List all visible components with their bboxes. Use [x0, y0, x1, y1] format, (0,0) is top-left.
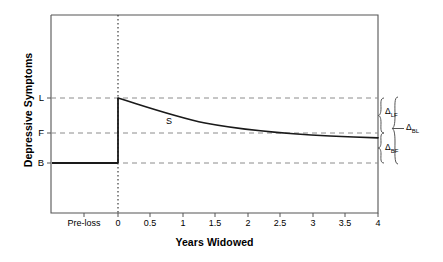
y-tick-label-B: B: [24, 158, 44, 168]
x-tick-label-3: 3: [299, 218, 327, 228]
x-tick-label-1-5: 1.5: [201, 218, 229, 228]
x-tick-label-1: 1: [169, 218, 197, 228]
x-tick-marks: [84, 213, 378, 217]
delta-bl-label: ΔBL: [406, 123, 419, 136]
x-tick-label-2-5: 2.5: [266, 218, 294, 228]
x-axis-title: Years Widowed: [51, 236, 378, 248]
delta-subscript-bl: BL: [412, 128, 419, 134]
y-tick-label-L: L: [24, 93, 44, 103]
x-tick-label-0: 0: [104, 218, 132, 228]
delta-subscript-bf: BF: [391, 148, 399, 154]
delta-lf-label: ΔLF: [385, 107, 398, 120]
brace-delta-BF: [378, 133, 384, 163]
delta-bf-label: ΔBF: [385, 143, 398, 156]
x-tick-label-3-5: 3.5: [331, 218, 359, 228]
y-tick-label-F: F: [24, 128, 44, 138]
y-tick-marks: [47, 98, 51, 163]
x-tick-label-2: 2: [234, 218, 262, 228]
x-tick-label-4: 4: [364, 218, 392, 228]
plot-frame: [51, 15, 378, 213]
curve-label-s: S: [166, 116, 172, 126]
brace-delta-LF: [378, 98, 384, 133]
grief-trajectory-chart: Depressive Symptoms Years Widowed L F B …: [0, 0, 443, 262]
x-tick-label-0-5: 0.5: [136, 218, 164, 228]
series-recovery-curve: [118, 98, 378, 138]
delta-subscript-lf: LF: [391, 112, 398, 118]
